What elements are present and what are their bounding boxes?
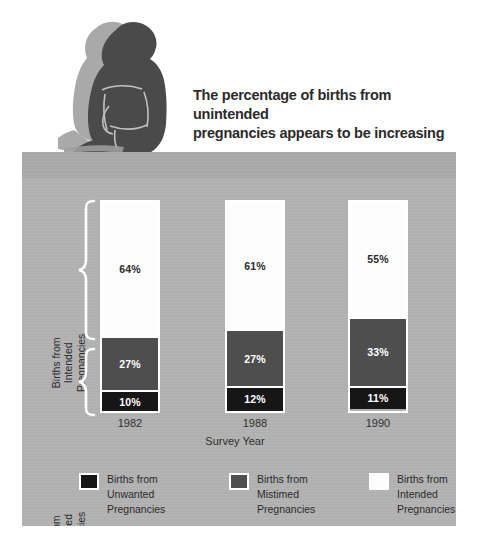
category-brackets [68, 196, 98, 420]
x-tick-label-1988: 1988 [213, 417, 297, 429]
baby-silhouette-illustration [58, 18, 198, 168]
legend-label-unwanted-line-1: Births from [107, 472, 165, 487]
segment-intended[interactable]: 55% [350, 202, 406, 317]
x-axis-title: Survey Year [175, 435, 295, 447]
segment-intended[interactable]: 64% [102, 202, 158, 336]
stacked-bar[interactable]: 61% 27% 12% [225, 200, 285, 413]
legend-item-intended[interactable]: Births from Intended Pregnancies [369, 472, 455, 517]
segment-unwanted[interactable]: 12% [227, 386, 283, 411]
legend-item-unwanted[interactable]: Births from Unwanted Pregnancies [79, 472, 165, 517]
legend-label-mistimed: Births from Mistimed Pregnancies [257, 472, 315, 517]
legend-label-intended: Births from Intended Pregnancies [397, 472, 455, 517]
header-area: The percentage of births from unintended… [0, 0, 477, 152]
legend-swatch-mistimed-icon [229, 473, 249, 490]
panel-top-shadow [22, 152, 456, 178]
bracket-unintended [79, 349, 94, 415]
bar-group-1988: 61% 27% 12% 1988 [225, 200, 285, 413]
legend-label-intended-line-2: Intended [397, 487, 455, 502]
legend-label-intended-line-3: Pregnancies [397, 502, 455, 517]
stacked-bar[interactable]: 55% 33% 11% [348, 200, 408, 413]
chart-panel: Births from Intended Pregnancies Births … [22, 152, 456, 526]
legend-label-unwanted-line-2: Unwanted [107, 487, 165, 502]
legend-label-mistimed-line-2: Mistimed [257, 487, 315, 502]
category-label-intended-line-1: Births from [50, 334, 62, 392]
page-title: The percentage of births from unintended… [193, 86, 465, 143]
legend-label-unwanted-line-3: Pregnancies [107, 502, 165, 517]
legend-item-mistimed[interactable]: Births from Mistimed Pregnancies [229, 472, 315, 517]
legend-swatch-intended-icon [369, 473, 389, 490]
segment-mistimed[interactable]: 27% [227, 329, 283, 385]
segment-mistimed[interactable]: 33% [350, 317, 406, 386]
legend: Births from Unwanted Pregnancies Births … [22, 472, 456, 526]
legend-label-intended-line-1: Births from [397, 472, 455, 487]
bar-group-1982: 64% 27% 10% 1982 [100, 200, 160, 413]
stacked-bar[interactable]: 64% 27% 10% [100, 200, 160, 413]
legend-label-unwanted: Births from Unwanted Pregnancies [107, 472, 165, 517]
segment-unwanted[interactable]: 11% [350, 386, 406, 409]
segment-unwanted[interactable]: 10% [102, 390, 158, 411]
page-title-line-1: The percentage of births from unintended [193, 86, 465, 124]
legend-label-mistimed-line-1: Births from [257, 472, 315, 487]
x-tick-label-1990: 1990 [336, 417, 420, 429]
bar-group-1990: 55% 33% 11% 1990 [348, 200, 408, 413]
legend-label-mistimed-line-3: Pregnancies [257, 502, 315, 517]
bracket-intended [79, 201, 94, 339]
segment-intended[interactable]: 61% [227, 202, 283, 329]
x-tick-label-1982: 1982 [88, 417, 172, 429]
segment-mistimed[interactable]: 27% [102, 336, 158, 390]
page-title-line-2: pregnancies appears to be increasing [193, 124, 465, 143]
legend-swatch-unwanted-icon [79, 473, 99, 490]
